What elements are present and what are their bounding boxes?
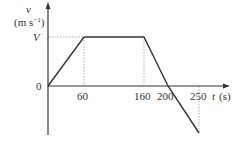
x-axis-unit-label: (s): [219, 90, 231, 103]
x-axis-arrow-icon: [223, 84, 230, 89]
x-tick-250: 250: [190, 90, 207, 102]
y-axis-unit-label: (m s−1): [14, 16, 45, 29]
y-tick-V: V: [33, 31, 41, 43]
velocity-line: [48, 37, 199, 133]
y-axis-var-label: v: [26, 3, 31, 15]
x-tick-200: 200: [157, 90, 174, 102]
origin-label: 0: [36, 80, 42, 92]
x-axis-var-label: t: [212, 90, 216, 102]
x-tick-160: 160: [134, 90, 151, 102]
velocity-time-graph: v (m s−1) V 0 60 160 200 250 t (s): [0, 0, 243, 143]
x-tick-60: 60: [77, 90, 89, 102]
y-axis-arrow-icon: [46, 2, 51, 9]
